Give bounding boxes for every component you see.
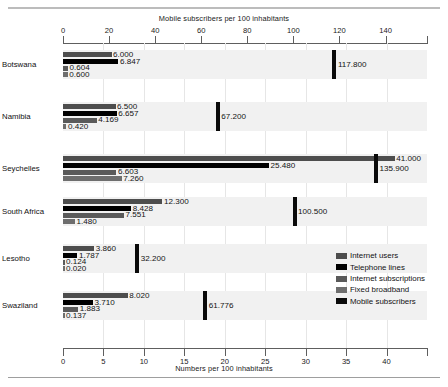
bar-value-label: 4.169 (98, 115, 118, 124)
top-tick-mark (109, 36, 110, 44)
bottom-tick-label: 5 (88, 357, 118, 366)
bottom-tick-mark (225, 348, 226, 356)
bar-value-label: 41.000 (396, 154, 421, 163)
bar-value-label: 7.551 (126, 210, 146, 219)
legend-item[interactable]: Internet users (336, 246, 444, 257)
bar-value-label: 0.600 (69, 70, 89, 79)
top-tick-mark (63, 36, 64, 44)
top-axis-title: Mobile subscribers per 100 inhabitants (63, 14, 385, 23)
top-tick-mark (293, 36, 294, 44)
top-tick-label: 140 (371, 26, 401, 35)
mobile-value-label: 100.500 (298, 207, 327, 216)
category-label: Swaziland (2, 301, 61, 310)
category-label: South Africa (2, 207, 61, 216)
bottom-tick-mark (427, 348, 428, 356)
top-divider-rule (8, 7, 440, 9)
bar-value-label: 12.300 (164, 197, 189, 206)
bar-fixed-broadband (63, 176, 122, 181)
category-label: Botswana (2, 60, 61, 69)
bottom-tick-label: 25 (250, 357, 280, 366)
bar-value-label: 0.020 (66, 264, 86, 273)
top-tick-label: 80 (232, 26, 262, 35)
mobile-value-label: 61.776 (209, 301, 234, 310)
top-axis-line (63, 43, 427, 44)
bar-telephone-lines (63, 206, 131, 211)
bar-internet-subscriptions (63, 170, 116, 175)
bar-value-label: 0.137 (66, 311, 86, 320)
bottom-tick-mark (144, 348, 145, 356)
legend-item[interactable]: Fixed broadband (336, 280, 444, 291)
bottom-tick-mark (346, 348, 347, 356)
top-tick-label: 100 (278, 26, 308, 35)
bottom-tick-mark (387, 348, 388, 356)
bar-value-label: 6.657 (118, 109, 138, 118)
bottom-tick-label: 20 (210, 357, 240, 366)
bar-fixed-broadband (63, 313, 65, 318)
bar-fixed-broadband (63, 266, 65, 271)
bar-value-label: 8.020 (129, 291, 149, 300)
category-label: Seychelles (2, 164, 61, 173)
bottom-divider-rule (8, 377, 440, 378)
mobile-value-label: 67.200 (221, 112, 246, 121)
bottom-tick-mark (265, 348, 266, 356)
bar-internet-users (63, 52, 112, 57)
top-tick-mark (155, 36, 156, 44)
bar-mobile-subscribers (216, 102, 220, 131)
top-tick-mark (201, 36, 202, 44)
bar-internet-users (63, 156, 395, 161)
top-tick-label: 40 (140, 26, 170, 35)
top-tick-label: 20 (94, 26, 124, 35)
bar-mobile-subscribers (293, 197, 297, 226)
category-label: Lesotho (2, 254, 61, 263)
bar-fixed-broadband (63, 124, 66, 129)
bottom-tick-mark (63, 348, 64, 356)
bottom-tick-mark (184, 348, 185, 356)
bar-internet-subscriptions (63, 66, 68, 71)
bar-telephone-lines (63, 163, 269, 168)
bar-mobile-subscribers (374, 154, 378, 183)
mobile-value-label: 32.200 (141, 254, 166, 263)
mobile-value-label: 135.900 (380, 164, 409, 173)
bar-fixed-broadband (63, 219, 75, 224)
bar-mobile-subscribers (135, 244, 139, 273)
legend-item-label: Mobile subscribers (350, 297, 416, 306)
bottom-tick-label: 15 (169, 357, 199, 366)
top-tick-label: 120 (324, 26, 354, 35)
legend-item[interactable]: Mobile subscribers (336, 292, 444, 303)
bar-internet-users (63, 104, 116, 109)
category-label: Namibia (2, 112, 61, 121)
bar-fixed-broadband (63, 72, 68, 77)
bar-value-label: 7.260 (123, 174, 143, 183)
bottom-tick-mark (306, 348, 307, 356)
top-tick-mark (386, 36, 387, 44)
bottom-tick-label: 40 (372, 357, 402, 366)
mobile-value-label: 117.800 (338, 60, 367, 69)
chart-legend: Internet usersTelephone linesInternet su… (336, 246, 444, 303)
bottom-axis-line (63, 348, 427, 349)
bottom-tick-label: 0 (48, 357, 78, 366)
legend-swatch-icon (336, 298, 347, 304)
bar-mobile-subscribers (332, 50, 336, 79)
bar-value-label: 6.847 (120, 57, 140, 66)
top-tick-label: 0 (48, 26, 78, 35)
bar-mobile-subscribers (203, 291, 207, 320)
bottom-tick-label: 10 (129, 357, 159, 366)
top-tick-label: 60 (186, 26, 216, 35)
bottom-tick-mark (103, 348, 104, 356)
bottom-tick-label: 30 (291, 357, 321, 366)
chart-figure: Mobile subscribers per 100 inhabitants N… (0, 0, 448, 387)
bar-internet-subscriptions (63, 260, 65, 265)
top-tick-mark (247, 36, 248, 44)
bottom-tick-label: 35 (331, 357, 361, 366)
bar-value-label: 1.480 (76, 217, 96, 226)
top-tick-mark (427, 36, 428, 44)
top-tick-mark (339, 36, 340, 44)
legend-item[interactable]: Telephone lines (336, 257, 444, 268)
bar-value-label: 25.480 (271, 161, 296, 170)
bar-value-label: 0.420 (68, 122, 88, 131)
legend-item[interactable]: Internet subscriptions (336, 269, 444, 280)
